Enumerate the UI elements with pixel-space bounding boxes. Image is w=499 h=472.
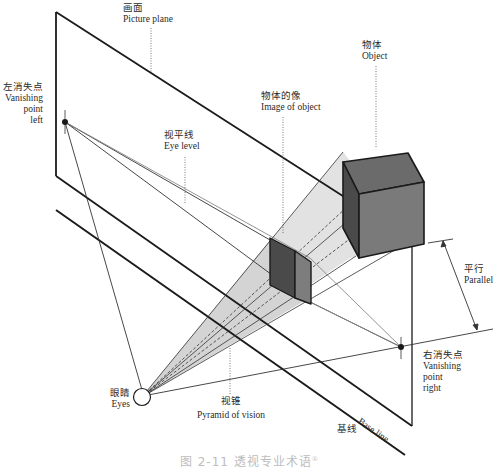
vanishing-point-right-marker xyxy=(398,337,404,359)
object-cube xyxy=(343,153,424,258)
caption-number: 图 2-11 xyxy=(180,455,229,469)
eyes-label: 眼睛 Eyes xyxy=(92,388,130,410)
figure-caption: 图 2-11 透视专业术语① xyxy=(0,452,499,469)
eye-circle xyxy=(134,389,151,406)
vanishing-point-left-label: 左消失点 Vanishing point left xyxy=(0,82,43,126)
object-label: 物体 Object xyxy=(362,40,387,62)
base-line-label-zh: 基线 xyxy=(337,424,357,435)
eye-level-label: 视平线 Eye level xyxy=(164,130,200,152)
pyramid-of-vision-label: 视锥 Pyramid of vision xyxy=(191,396,271,421)
picture-plane-label: 画面 Picture plane xyxy=(123,3,173,25)
image-of-object-label: 物体的像 Image of object xyxy=(261,91,321,113)
parallel-label: 平行 Parallel xyxy=(464,264,493,286)
vanishing-point-right-label: 右消失点 Vanishing point right xyxy=(423,350,463,394)
caption-text: 透视专业术语 xyxy=(234,455,312,469)
caption-footnote: ① xyxy=(312,455,319,463)
